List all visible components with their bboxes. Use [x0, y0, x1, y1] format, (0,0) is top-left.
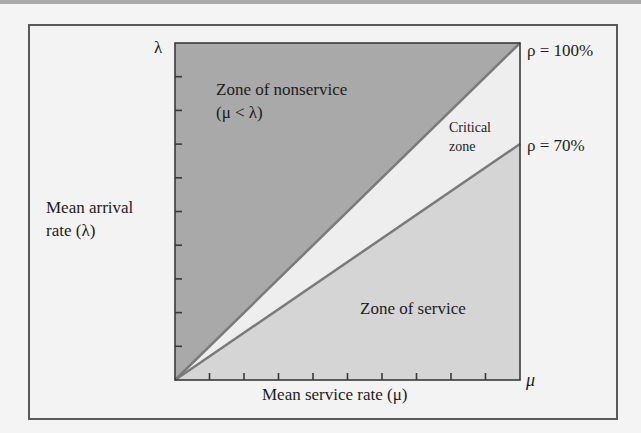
rho-100-label: ρ = 100%: [527, 41, 593, 61]
zone-nonservice-label: Zone of nonservice (μ < λ): [216, 78, 347, 124]
zone-nonservice-label-line2: (μ < λ): [216, 101, 347, 124]
y-axis-top-symbol: λ: [154, 38, 162, 58]
zone-service-label: Zone of service: [360, 299, 466, 319]
zone-critical-label-line1: Critical: [449, 118, 491, 137]
y-axis-label-line1: Mean arrival: [46, 196, 133, 219]
zone-critical-label-line2: zone: [449, 137, 491, 156]
zone-nonservice-label-line1: Zone of nonservice: [216, 78, 347, 101]
x-axis-end-symbol: μ: [526, 370, 535, 391]
x-axis-label: Mean service rate (μ): [262, 385, 408, 405]
zone-critical-label: Critical zone: [449, 118, 491, 156]
y-axis-label: Mean arrival rate (λ): [46, 196, 133, 242]
y-axis-label-line2: rate (λ): [46, 219, 133, 242]
rho-70-label: ρ = 70%: [527, 136, 585, 156]
